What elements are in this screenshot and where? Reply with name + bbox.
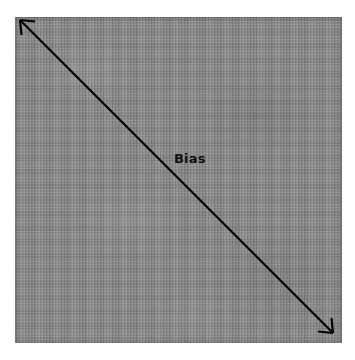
linen-fabric-swatch [15,17,342,343]
bias-diagram: Bias [0,0,355,360]
bias-label: Bias [174,152,206,165]
fabric-texture-mottle [15,17,342,343]
